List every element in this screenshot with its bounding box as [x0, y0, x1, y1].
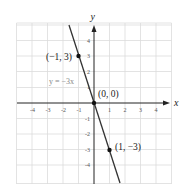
- label-point-origin: (0, 0): [98, 89, 119, 100]
- x-axis-label: x: [173, 97, 179, 108]
- svg-text:-1: -1: [85, 116, 90, 122]
- point-origin: [92, 101, 96, 105]
- svg-text:4: 4: [87, 38, 90, 44]
- equation-label: y = −3x: [49, 77, 74, 86]
- point-1-neg3: [107, 148, 111, 152]
- point-neg1-3: [76, 54, 80, 58]
- svg-text:-2: -2: [85, 131, 90, 137]
- svg-text:1: 1: [108, 107, 111, 113]
- svg-text:-1: -1: [77, 107, 82, 113]
- y-axis-label: y: [90, 11, 96, 22]
- svg-text:2: 2: [87, 69, 90, 75]
- svg-text:3: 3: [87, 53, 90, 59]
- svg-text:-3: -3: [85, 147, 90, 153]
- x-axis-arrow-icon: [163, 101, 170, 106]
- svg-text:2: 2: [124, 107, 127, 113]
- svg-text:-4: -4: [85, 162, 90, 168]
- svg-text:-3: -3: [46, 107, 51, 113]
- svg-text:-4: -4: [30, 107, 35, 113]
- svg-text:-2: -2: [61, 107, 66, 113]
- coordinate-plane: x y -4 -3 -2 -1 1 2 3 4 4 3 2 1 -1 -2 -3…: [0, 0, 187, 196]
- label-point-1-neg3: (1, −3): [115, 142, 141, 153]
- label-point-neg1-3: (−1, 3): [46, 52, 72, 63]
- svg-text:4: 4: [155, 107, 158, 113]
- y-axis-arrow-icon: [92, 25, 97, 32]
- svg-text:3: 3: [139, 107, 142, 113]
